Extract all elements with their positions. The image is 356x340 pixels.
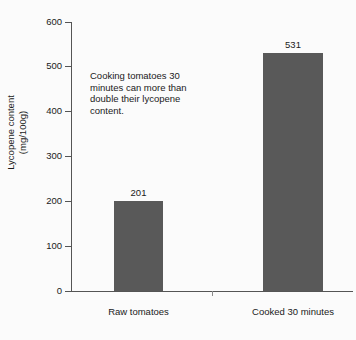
y-tick-label-0: 0 bbox=[20, 286, 62, 296]
bar-chart-figure: Lycopene content (mg/100g) 600 500 400 3… bbox=[0, 0, 356, 340]
y-tick-label-300: 300 bbox=[20, 151, 62, 161]
chart-annotation: Cooking tomatoes 30 minutes can more tha… bbox=[90, 70, 206, 116]
bar-raw-tomatoes[interactable] bbox=[114, 201, 163, 291]
y-axis-line bbox=[71, 22, 72, 291]
y-tick-label-400: 400 bbox=[20, 106, 62, 116]
y-tick-label-100: 100 bbox=[20, 241, 62, 251]
y-axis-ticks: 600 500 400 300 200 100 0 bbox=[0, 0, 71, 340]
bar-value-cooked-30-minutes: 531 bbox=[263, 40, 323, 50]
y-tick-label-500: 500 bbox=[20, 61, 62, 71]
bar-value-raw-tomatoes: 201 bbox=[108, 188, 169, 198]
y-tick-label-600: 600 bbox=[20, 17, 62, 27]
y-tick-label-200: 200 bbox=[20, 196, 62, 206]
x-category-label-cooked-30-minutes: Cooked 30 minutes bbox=[238, 307, 348, 317]
x-axis-separator-tick bbox=[212, 291, 213, 296]
bar-cooked-30-minutes[interactable] bbox=[263, 53, 323, 291]
x-category-label-raw-tomatoes: Raw tomatoes bbox=[88, 307, 189, 317]
